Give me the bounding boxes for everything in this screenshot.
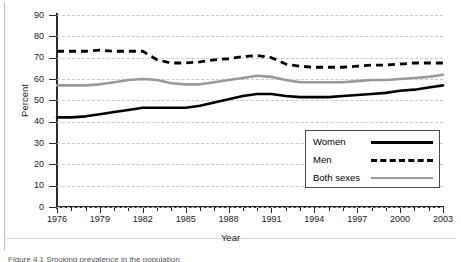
x-axis-tick-minor (86, 208, 87, 211)
x-axis-tick-minor (114, 208, 115, 211)
x-axis-tick (57, 208, 58, 213)
x-axis-tick-label: 1976 (37, 215, 77, 224)
x-axis-tick-minor (257, 208, 258, 211)
y-axis-tick-label: 20 (20, 160, 44, 169)
legend-item-men[interactable]: Men (313, 151, 435, 169)
line-women (57, 85, 443, 117)
x-axis-tick-label: 1988 (209, 215, 249, 224)
y-axis-tick (49, 100, 56, 101)
y-axis-tick (49, 36, 56, 37)
line-men (57, 50, 443, 67)
x-axis-tick-minor (171, 208, 172, 211)
y-axis-tick-label: 90 (20, 11, 44, 20)
y-axis-tick (49, 186, 56, 187)
x-axis-tick-minor (214, 208, 215, 211)
x-axis-tick-minor (200, 208, 201, 211)
line-both-sexes (57, 75, 443, 86)
x-axis-tick-label: 1979 (80, 215, 120, 224)
x-axis-tick (186, 208, 187, 213)
y-axis-tick (49, 207, 56, 208)
y-axis-tick-label: 30 (20, 139, 44, 148)
legend-label-women: Women (313, 137, 346, 147)
chart-legend[interactable]: Women Men Both sexes (305, 130, 440, 188)
x-axis-tick-label: 2000 (380, 215, 420, 224)
y-axis-tick (49, 164, 56, 165)
y-axis-tick-label: 80 (20, 32, 44, 41)
y-axis-tick-label: 0 (20, 203, 44, 212)
x-axis-tick-minor (300, 208, 301, 211)
x-axis-tick (314, 208, 315, 213)
x-axis-tick-label: 1994 (294, 215, 334, 224)
legend-swatch-both-sexes-icon (371, 177, 433, 179)
x-axis-tick-minor (343, 208, 344, 211)
y-axis-tick-label: 70 (20, 53, 44, 62)
figure-left-border (4, 2, 5, 250)
x-axis-tick-label: 1985 (166, 215, 206, 224)
x-axis-tick (229, 208, 230, 213)
x-axis-tick-minor (414, 208, 415, 211)
legend-label-men: Men (313, 155, 331, 165)
x-axis-tick-minor (286, 208, 287, 211)
figure-container: 0102030405060708090 19761979198219851988… (0, 0, 461, 262)
x-axis-tick-minor (329, 208, 330, 211)
legend-item-women[interactable]: Women (313, 133, 435, 151)
x-axis-title: Year (0, 232, 461, 243)
x-axis-tick (143, 208, 144, 213)
legend-item-both-sexes[interactable]: Both sexes (313, 169, 435, 187)
x-axis-tick (400, 208, 401, 213)
x-axis-tick (443, 208, 444, 213)
x-axis-tick-minor (71, 208, 72, 211)
x-axis-tick-minor (128, 208, 129, 211)
x-axis-tick-minor (243, 208, 244, 211)
y-axis-tick (49, 15, 56, 16)
x-axis-tick-label: 1997 (337, 215, 377, 224)
y-axis-tick (49, 58, 56, 59)
y-axis-tick (49, 79, 56, 80)
x-axis-tick (271, 208, 272, 213)
legend-label-both-sexes: Both sexes (313, 173, 360, 183)
x-axis-tick-minor (157, 208, 158, 211)
y-axis-title: Percent (19, 71, 30, 131)
x-axis-tick-label: 1991 (251, 215, 291, 224)
y-axis-tick (49, 143, 56, 144)
y-axis-tick (49, 122, 56, 123)
x-axis-tick-minor (372, 208, 373, 211)
y-axis-tick-label: 10 (20, 181, 44, 190)
x-axis-tick (100, 208, 101, 213)
x-axis-tick-label: 2003 (423, 215, 461, 224)
figure-caption: Figure 4.1 Smoking prevalence in the pop… (8, 255, 448, 262)
legend-swatch-men-icon (371, 159, 433, 162)
x-axis-tick-minor (429, 208, 430, 211)
x-axis-tick-label: 1982 (123, 215, 163, 224)
x-axis-tick (357, 208, 358, 213)
x-axis-tick-minor (386, 208, 387, 211)
legend-swatch-women-icon (371, 141, 433, 144)
